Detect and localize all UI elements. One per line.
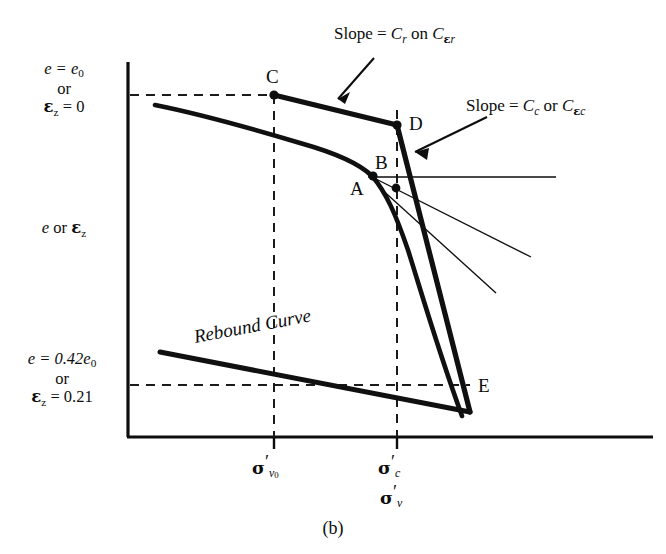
- rebound-curve-line: [160, 352, 470, 412]
- point-label-D: D: [409, 113, 423, 134]
- y-axis-label-bottom-line2: or: [2, 370, 122, 388]
- leader-line-slope-r: [338, 58, 374, 99]
- point-label-A: A: [350, 178, 364, 199]
- reference-lines: [130, 95, 470, 437]
- y-axis-label-top-line2: or: [8, 80, 120, 98]
- point-label-E: E: [478, 375, 490, 396]
- figure-caption: (b): [0, 518, 666, 538]
- leader-line-slope-c: [415, 117, 487, 152]
- leader-arrow-slope-r: [338, 58, 374, 104]
- y-axis-label-bottom: e = 0.42e0 or εz = 0.21: [2, 350, 122, 409]
- x-axis-name-sigma-v: σ′v: [380, 482, 402, 511]
- y-axis-label-top-line3: εz = 0: [8, 98, 120, 118]
- x-tick-label-sigma-c: σ′c: [378, 452, 400, 481]
- y-axis-label-top-line1: e = e0: [8, 60, 120, 80]
- axis-ticks: [274, 437, 397, 449]
- y-axis-label-bottom-line1: e = 0.42e0: [2, 350, 122, 370]
- y-axis-label-top: e = e0 or εz = 0: [8, 60, 120, 119]
- point-marker-B: [392, 184, 401, 193]
- annotation-slope-cr: Slope = Cr on Cεr: [334, 24, 455, 47]
- x-tick-label-sigma-v0: σ′v0: [252, 452, 279, 481]
- point-marker-D: [392, 120, 401, 129]
- point-label-C: C: [266, 66, 279, 87]
- y-axis-label-middle: e or εz: [8, 219, 120, 239]
- annotation-slope-cc: Slope = Cc or Cεc: [466, 96, 585, 119]
- y-axis-label-bottom-line3: εz = 0.21: [2, 388, 122, 408]
- consolidation-curve-figure: e = e0 or εz = 0 e or εz e = 0.42e0 or ε…: [0, 0, 666, 554]
- arrowhead-slope-r: [338, 92, 350, 104]
- arrowhead-slope-c: [415, 148, 429, 160]
- point-marker-C: [269, 90, 278, 99]
- leader-arrow-slope-c: [415, 117, 487, 160]
- point-label-B: B: [375, 152, 388, 173]
